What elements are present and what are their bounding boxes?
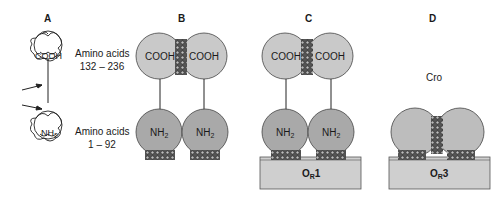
operator-or1-label: OR1: [302, 168, 320, 180]
nh-text: NH: [276, 127, 290, 138]
nh2-label-b-left: NH2: [150, 127, 168, 139]
operator-number: 1: [315, 168, 321, 179]
dna-binding-surface: [145, 150, 175, 160]
panel-label-a: A: [44, 13, 51, 24]
cro-label: Cro: [426, 72, 442, 83]
nh2-label-b-right: NH2: [196, 127, 214, 139]
nh-text: NH: [322, 127, 336, 138]
operator-o: O: [430, 168, 438, 179]
nh-text: NH: [41, 128, 54, 138]
nh-text: NH: [150, 127, 164, 138]
nh2-caption-line1: Amino acids: [75, 126, 129, 137]
diagram-canvas: [0, 0, 497, 197]
operator-number: 3: [443, 168, 449, 179]
panel-a-graphic: [22, 31, 62, 141]
subscript-2: 2: [336, 132, 340, 139]
dimerization-contact: [175, 39, 187, 75]
nh2-label-c-left: NH2: [276, 127, 294, 139]
operator-o: O: [302, 168, 310, 179]
arrow-icon: [22, 84, 42, 110]
cooh-label-b-right: COOH: [189, 51, 219, 62]
panel-label-d: D: [429, 13, 436, 24]
cooh-caption-line2: 132 – 236: [75, 61, 129, 72]
panel-label-c: C: [305, 13, 312, 24]
cooh-caption-line1: Amino acids: [75, 48, 129, 59]
cooh-label-c-left: COOH: [271, 51, 301, 62]
subscript-2: 2: [290, 132, 294, 139]
dna-binding-surface: [190, 150, 220, 160]
panel-label-b: B: [178, 13, 185, 24]
subscript-2: 2: [54, 132, 58, 139]
nh2-caption-line2: 1 – 92: [75, 139, 129, 150]
subscript-2: 2: [164, 132, 168, 139]
cooh-label: COOH: [35, 51, 62, 61]
nh-text: NH: [196, 127, 210, 138]
nh2-label-a: NH2: [41, 128, 58, 139]
subscript-2: 2: [210, 132, 214, 139]
cooh-label-b-left: COOH: [145, 51, 175, 62]
operator-or3-label: OR3: [430, 168, 448, 180]
cooh-label-c-right: COOH: [315, 51, 345, 62]
nh2-label-c-right: NH2: [322, 127, 340, 139]
